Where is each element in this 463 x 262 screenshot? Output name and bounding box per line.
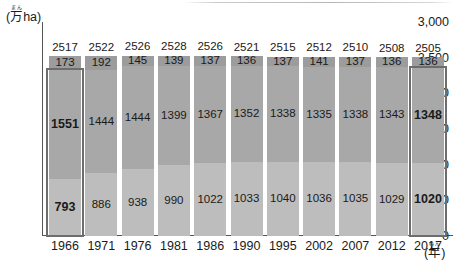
bar-group: 139139999025281981 — [158, 22, 190, 236]
y-axis-line — [42, 22, 43, 236]
x-axis-tick-label: 1986 — [196, 240, 224, 253]
bar-segment-value: 136 — [382, 57, 401, 67]
bar-segment-value: 1036 — [306, 193, 332, 205]
chart-plot-area: 3,0002,5002,0001,5001,0005000 1731551793… — [42, 22, 453, 236]
bar-segment-mid: 1551 — [49, 69, 81, 180]
x-axis-tick-label: 2007 — [341, 240, 369, 253]
y-axis-unit-ruby: まん — [10, 4, 23, 10]
bar-total-label: 2521 — [234, 42, 260, 54]
bar-segment-bot: 1036 — [303, 162, 335, 236]
bar-segment-value: 192 — [92, 57, 111, 69]
bar-segment-value: 141 — [310, 57, 329, 67]
bar-total-label: 2512 — [306, 42, 332, 54]
bar-segment-value: 1348 — [414, 109, 442, 122]
bar-total-label: 2510 — [343, 42, 369, 54]
bar-group: 192144488625221971 — [85, 22, 117, 236]
bar-segment-value: 1022 — [197, 194, 223, 206]
bar-segment-value: 139 — [164, 56, 183, 66]
bar-segment-value: 1029 — [379, 194, 405, 206]
bar-total-label: 2505 — [415, 43, 441, 55]
bar-segment-bot: 1022 — [194, 163, 226, 236]
bar-total-label: 2526 — [197, 41, 223, 53]
bar-segment-mid: 1335 — [303, 67, 335, 162]
stacked-bar[interactable]: 13713381040 — [267, 57, 299, 236]
bar-segment-mid: 1338 — [267, 66, 299, 161]
bar-segment-top: 136 — [376, 57, 408, 67]
bar-segment-value: 136 — [418, 57, 437, 67]
bar-group: 1361352103325211990 — [231, 22, 263, 236]
y-axis-unit-kanji: 万まん — [10, 10, 23, 24]
bar-segment-value: 1035 — [343, 193, 369, 205]
bar-total-label: 2528 — [161, 41, 187, 53]
bar-segment-value: 1343 — [379, 109, 405, 121]
bar-segment-bot: 1029 — [376, 163, 408, 236]
stacked-bar[interactable]: 1391399990 — [158, 56, 190, 236]
bar-segment-bot: 886 — [85, 173, 117, 236]
bar-group: 1361348102025052017 — [412, 22, 444, 236]
bar-segment-value: 1338 — [343, 109, 369, 121]
bar-segment-value: 1444 — [125, 112, 151, 124]
stacked-bar[interactable]: 14113351036 — [303, 57, 335, 236]
bar-segment-bot: 938 — [122, 169, 154, 236]
bar-segment-bot: 793 — [49, 179, 81, 236]
bar-segment-mid: 1338 — [339, 67, 371, 162]
bar-segment-top: 139 — [158, 56, 190, 66]
bar-segment-top: 192 — [85, 56, 117, 70]
bar-segment-value: 136 — [237, 56, 256, 66]
stacked-bar[interactable]: 13613481020 — [412, 57, 444, 236]
x-axis-tick-label: 1995 — [269, 240, 297, 253]
bar-segment-value: 1352 — [234, 108, 260, 120]
bar-segment-value: 1040 — [270, 193, 296, 205]
bar-segment-top: 136 — [412, 57, 444, 67]
stacked-bar[interactable]: 13613431029 — [376, 57, 408, 236]
bar-group: 1361343102925082012 — [376, 22, 408, 236]
stacked-bar[interactable]: 1731551793 — [49, 56, 81, 236]
x-axis-tick-label: 1990 — [233, 240, 261, 253]
bar-segment-top: 136 — [231, 56, 263, 66]
x-axis-tick-label: 2002 — [305, 240, 333, 253]
bar-total-label: 2526 — [125, 41, 151, 53]
bar-segment-value: 1335 — [306, 109, 332, 121]
bar-segment-value: 137 — [346, 57, 365, 67]
bar-segment-value: 137 — [201, 56, 220, 66]
x-axis-tick-label: 1976 — [124, 240, 152, 253]
bar-segment-bot: 1040 — [267, 162, 299, 236]
stacked-bar[interactable]: 1451444938 — [122, 56, 154, 236]
bar-segment-mid: 1444 — [122, 66, 154, 169]
stacked-bar[interactable]: 13713671022 — [194, 56, 226, 236]
x-axis-unit-kanji: 年ねん — [428, 246, 441, 260]
bar-total-label: 2522 — [89, 42, 115, 54]
x-axis-tick-label: 2012 — [378, 240, 406, 253]
bar-segment-bot: 1033 — [231, 162, 263, 236]
bar-segment-value: 1033 — [234, 193, 260, 205]
stacked-bar[interactable]: 13613521033 — [231, 56, 263, 236]
x-axis-tick-label: 1971 — [87, 240, 115, 253]
bar-segment-top: 173 — [49, 56, 81, 68]
bar-segment-value: 1020 — [414, 193, 442, 206]
bar-segment-bot: 1035 — [339, 162, 371, 236]
bar-segment-value: 990 — [164, 195, 183, 207]
stacked-bar[interactable]: 13713381035 — [339, 57, 371, 236]
bar-segment-top: 145 — [122, 56, 154, 66]
x-axis-tick-label: 1981 — [160, 240, 188, 253]
bar-group: 173155179325171966 — [49, 22, 81, 236]
bar-segment-value: 1399 — [161, 110, 187, 122]
bar-segment-value: 173 — [55, 57, 74, 69]
bar-segment-top: 137 — [339, 57, 371, 67]
bar-segment-value: 1338 — [270, 108, 296, 120]
bar-segment-value: 886 — [92, 199, 111, 211]
y-axis-unit-label: (万まんha) — [6, 4, 41, 24]
bar-segment-value: 793 — [55, 201, 76, 214]
bar-segment-value: 1367 — [197, 109, 223, 121]
bar-segment-value: 1444 — [89, 116, 115, 128]
bar-segment-mid: 1444 — [85, 70, 117, 173]
x-axis-tick-label: 1966 — [51, 240, 79, 253]
bar-group: 1411335103625122002 — [303, 22, 335, 236]
bar-segment-value: 145 — [128, 56, 147, 66]
bar-segment-value: 1551 — [51, 118, 79, 131]
stacked-bar[interactable]: 1921444886 — [85, 56, 117, 236]
bar-segment-mid: 1343 — [376, 67, 408, 163]
bar-segment-top: 137 — [194, 56, 226, 66]
bar-segment-mid: 1399 — [158, 66, 190, 166]
x-axis-unit-label: (年ねん) — [424, 240, 445, 260]
